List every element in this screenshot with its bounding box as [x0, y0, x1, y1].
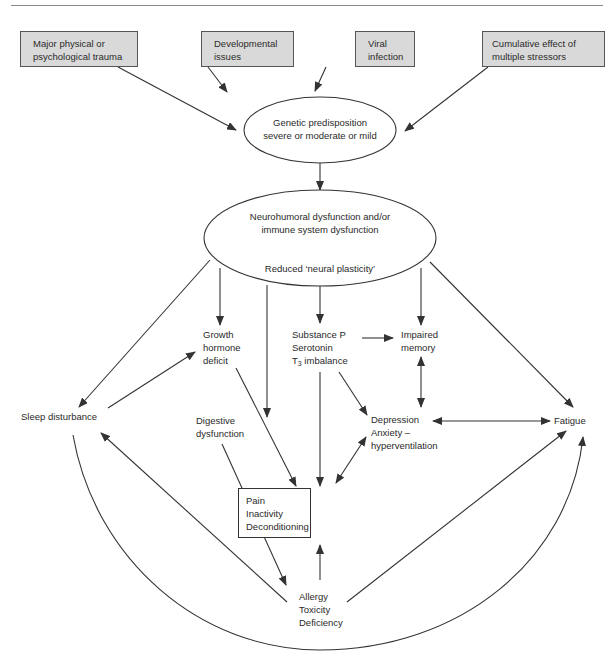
pain-inactivity-box: Pain Inactivity Deconditioning — [238, 488, 311, 538]
edge-growth-pain — [236, 368, 296, 486]
cause-trauma-box: Major physical or psychological trauma — [20, 31, 138, 67]
growth-line3: deficit — [203, 354, 241, 367]
impaired-memory-label: Impaired memory — [401, 328, 438, 354]
substance-line3: T3 imbalance — [292, 354, 348, 367]
depression-line2: Anxiety – — [371, 426, 438, 439]
sleep-disturbance-label: Sleep disturbance — [21, 410, 97, 423]
depression-line1: Depression — [371, 413, 438, 426]
edge-substance-depression — [339, 372, 367, 415]
edge-allergy-fatigue — [347, 431, 566, 602]
pain-line1: Pain — [246, 494, 310, 507]
substance-line1: Substance P — [292, 328, 348, 341]
growth-line1: Growth — [203, 328, 241, 341]
memory-line2: memory — [401, 341, 438, 354]
edge-stressors-genetic — [405, 67, 488, 131]
edge-neuro-fatigue — [430, 262, 573, 407]
substance-line2: Serotonin — [292, 341, 348, 354]
neurohumoral-label: Neurohumoral dysfunction and/or immune s… — [214, 210, 426, 236]
allergy-line2: Toxicity — [299, 603, 343, 616]
allergy-line1: Allergy — [299, 590, 343, 603]
cause-stressors-line2: multiple stressors — [492, 50, 604, 63]
substance-p-label: Substance P Serotonin T3 imbalance — [292, 328, 348, 367]
cause-viral-box: Viral infection — [355, 31, 415, 67]
allergy-toxicity-label: Allergy Toxicity Deficiency — [299, 590, 343, 629]
fatigue-label: Fatigue — [554, 414, 586, 427]
pain-line2: Inactivity — [246, 507, 310, 520]
cause-developmental-line1: Developmental — [214, 37, 293, 50]
memory-line1: Impaired — [401, 328, 438, 341]
depression-line3: hyperventilation — [371, 439, 438, 452]
digestive-line2: dysfunction — [196, 427, 244, 440]
edge-developmental-genetic — [208, 67, 227, 92]
cause-stressors-line1: Cumulative effect of — [492, 37, 604, 50]
cause-trauma-line1: Major physical or — [33, 37, 137, 50]
digestive-dysfunction-label: Digestive dysfunction — [196, 414, 244, 440]
genetic-line1: Genetic predisposition — [244, 116, 396, 129]
depression-anxiety-label: Depression Anxiety – hyperventilation — [371, 413, 438, 452]
digestive-line1: Digestive — [196, 414, 244, 427]
cause-stressors-box: Cumulative effect of multiple stressors — [482, 31, 605, 67]
genetic-line2: severe or moderate or mild — [244, 129, 396, 142]
edge-trauma-genetic — [118, 67, 236, 130]
allergy-line3: Deficiency — [299, 616, 343, 629]
t3-suffix: imbalance — [302, 355, 348, 366]
cause-viral-line1: Viral — [368, 37, 414, 50]
neuro-line1: Neurohumoral dysfunction and/or — [214, 210, 426, 223]
cause-viral-line2: infection — [368, 50, 414, 63]
neuro-line2: immune system dysfunction — [214, 223, 426, 236]
growth-hormone-deficit-label: Growth hormone deficit — [203, 328, 241, 367]
cause-trauma-line2: psychological trauma — [33, 50, 137, 63]
neural-plasticity-label: Reduced ‘neural plasticity’ — [214, 262, 426, 275]
edge-depression-pain — [336, 437, 366, 483]
cause-developmental-box: Developmental issues — [201, 31, 294, 67]
pain-line3: Deconditioning — [246, 520, 310, 533]
cause-developmental-line2: issues — [214, 50, 293, 63]
growth-line2: hormone — [203, 341, 241, 354]
edge-viral-genetic — [315, 67, 326, 91]
genetic-predisposition-label: Genetic predisposition severe or moderat… — [244, 116, 396, 142]
